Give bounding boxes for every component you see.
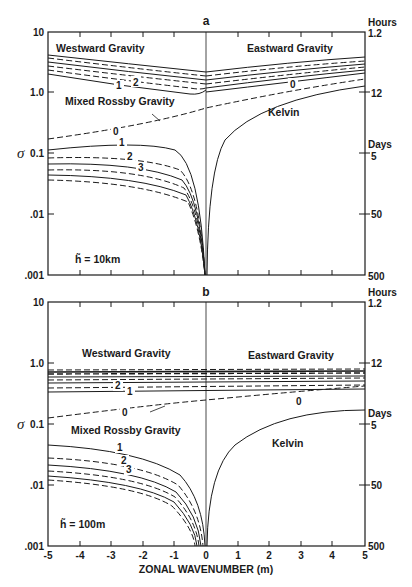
svg-text:4: 4 [329, 550, 335, 561]
svg-text:2: 2 [133, 77, 139, 88]
panel-a-westward-curves [48, 55, 206, 94]
svg-text:5: 5 [362, 550, 368, 561]
right-tick-12: 12 [371, 358, 383, 369]
right-hours-label: Hours [368, 287, 397, 298]
right-tick-50: 50 [371, 480, 383, 491]
right-tick-1.2: 1.2 [368, 298, 382, 309]
y-tick-0.001: .001 [25, 270, 45, 281]
svg-text:2: 2 [115, 380, 121, 391]
x-axis-ticks: -5 -4 -3 -2 -1 0 1 2 3 4 5 [44, 550, 369, 561]
right-days-label: Days [368, 139, 392, 150]
kelvin-label: Kelvin [272, 437, 304, 449]
svg-text:1: 1 [119, 137, 125, 148]
svg-text:2: 2 [266, 550, 272, 561]
panel-b-gravity-curves [48, 369, 365, 392]
svg-text:-4: -4 [76, 550, 85, 561]
svg-text:0: 0 [203, 550, 209, 561]
panel-a-y-ticks [48, 32, 370, 275]
svg-text:1: 1 [117, 442, 123, 453]
y-tick-0.01: .01 [30, 209, 44, 220]
y-tick-1: 1.0 [30, 87, 44, 98]
svg-text:1: 1 [127, 386, 133, 397]
svg-text:-1: -1 [170, 550, 179, 561]
panel-a-title: a [203, 14, 210, 28]
y-tick-0.01: .01 [30, 480, 44, 491]
svg-text:0: 0 [290, 79, 296, 90]
panel-a-eastward-curves [206, 57, 365, 92]
y-tick-10: 10 [33, 297, 45, 308]
svg-text:3: 3 [126, 464, 132, 475]
right-tick-500: 500 [368, 271, 385, 282]
right-tick-12: 12 [371, 88, 383, 99]
y-tick-0.1: 0.1 [30, 419, 44, 430]
sigma-label: σ [17, 416, 25, 432]
panel-b-title: b [202, 285, 209, 299]
x-axis-label: ZONAL WAVENUMBER (m) [139, 563, 273, 575]
eastward-gravity-label: Eastward Gravity [248, 349, 334, 361]
mrg-label: Mixed Rossby Gravity [65, 95, 175, 107]
right-days-label: Days [368, 408, 392, 419]
svg-text:3: 3 [298, 550, 304, 561]
right-tick-500: 500 [368, 541, 385, 552]
westward-gravity-label: Westward Gravity [56, 42, 145, 54]
westward-gravity-label: Westward Gravity [82, 347, 171, 359]
depth-label: h̃ = 10km [75, 253, 120, 265]
svg-text:0: 0 [113, 126, 119, 137]
y-tick-1: 1.0 [30, 358, 44, 369]
y-tick-0.1: 0.1 [30, 148, 44, 159]
right-tick-1.2: 1.2 [368, 28, 382, 39]
mrg-arrow [152, 114, 160, 121]
panel-b: b 10 1.0 0.1 .01 .001 σ Hours 1.2 12 Day… [17, 285, 397, 552]
eastward-gravity-label: Eastward Gravity [247, 42, 333, 54]
sigma-label: σ [17, 145, 25, 161]
y-tick-0.001: .001 [25, 541, 45, 552]
kelvin-label: Kelvin [268, 106, 300, 118]
panel-a: a 10 1.0 0.1 .01 .001 σ Hours 1.2 12 Day… [17, 14, 397, 282]
svg-text:0: 0 [296, 396, 302, 407]
svg-text:-3: -3 [107, 550, 116, 561]
svg-text:1: 1 [235, 550, 241, 561]
panel-b-kelvin-curve [207, 410, 365, 546]
right-tick-50: 50 [371, 209, 383, 220]
svg-text:-2: -2 [139, 550, 148, 561]
svg-text:-5: -5 [44, 550, 53, 561]
svg-text:1: 1 [116, 80, 122, 91]
right-tick-5: 5 [371, 420, 377, 431]
mrg-label: Mixed Rossby Gravity [71, 424, 181, 436]
dispersion-figure: a 10 1.0 0.1 .01 .001 σ Hours 1.2 12 Day… [0, 0, 412, 587]
right-hours-label: Hours [368, 17, 397, 28]
panel-a-rossby-curves [48, 145, 205, 275]
mrg-arrow [150, 406, 165, 412]
depth-label: h̃ = 100m [60, 518, 105, 530]
svg-text:0: 0 [122, 407, 128, 418]
svg-text:3: 3 [138, 162, 144, 173]
right-tick-5: 5 [371, 151, 377, 162]
y-tick-10: 10 [33, 27, 45, 38]
svg-text:2: 2 [127, 151, 133, 162]
